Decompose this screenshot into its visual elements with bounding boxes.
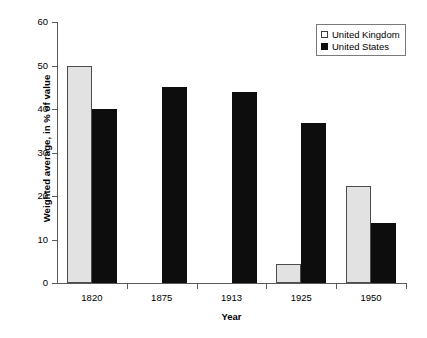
bar-1913-united-states <box>232 92 257 283</box>
y-axis-tick <box>52 66 58 67</box>
y-axis-tick-label: 40 <box>8 104 48 114</box>
bar-1950-united-states <box>371 223 396 283</box>
y-axis-tick <box>52 153 58 154</box>
y-axis-tick <box>52 240 58 241</box>
legend-label-united-states: United States <box>332 41 389 52</box>
chart-legend: United Kingdom United States <box>316 24 406 56</box>
x-axis-tick-label: 1925 <box>271 292 331 303</box>
legend-item-united-states[interactable]: United States <box>321 40 400 52</box>
x-axis-tick <box>197 283 198 289</box>
x-axis-tick <box>406 283 407 289</box>
legend-item-united-kingdom[interactable]: United Kingdom <box>321 28 400 40</box>
bar-1925-united-kingdom <box>276 264 301 283</box>
y-axis-tick-label: 50 <box>8 61 48 71</box>
y-axis-tick-label: 60 <box>8 17 48 27</box>
bar-chart: Weighted average, in % of value 01020304… <box>0 0 427 338</box>
x-axis-tick-label: 1913 <box>202 292 262 303</box>
x-axis-tick-label: 1820 <box>62 292 122 303</box>
legend-label-united-kingdom: United Kingdom <box>332 29 400 40</box>
y-axis-tick-label: 30 <box>8 148 48 158</box>
bar-1820-united-states <box>92 109 117 283</box>
bar-1820-united-kingdom <box>67 66 92 284</box>
y-axis-tick-label: 0 <box>8 278 48 288</box>
y-axis-tick <box>52 109 58 110</box>
x-axis-tick <box>127 283 128 289</box>
x-axis-line <box>57 283 406 284</box>
legend-swatch-icon-united-states <box>321 43 328 50</box>
x-axis-tick <box>266 283 267 289</box>
bar-1925-united-states <box>301 123 326 283</box>
y-axis-tick-label: 20 <box>8 191 48 201</box>
x-axis-title: Year <box>57 311 406 322</box>
y-axis-tick <box>52 22 58 23</box>
x-axis-tick-label: 1875 <box>132 292 192 303</box>
bar-1950-united-kingdom <box>346 186 371 283</box>
y-axis-tick <box>52 196 58 197</box>
y-axis-tick-label: 10 <box>8 235 48 245</box>
legend-swatch-icon-united-kingdom <box>321 31 328 38</box>
x-axis-tick <box>336 283 337 289</box>
x-axis-tick-label: 1950 <box>341 292 401 303</box>
bar-1875-united-states <box>162 87 187 283</box>
